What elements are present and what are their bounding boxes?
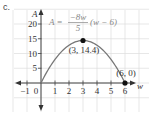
y-axis-label: A: [31, 9, 38, 19]
x-tick-label: 0: [34, 86, 39, 96]
x-tick-label: 6: [123, 86, 128, 96]
data-point-label: (6, 0): [116, 68, 136, 78]
equation-numerator: −8w: [70, 12, 87, 22]
y-tick-label: 10: [28, 49, 38, 59]
equation-rhs: (w − 6): [90, 17, 117, 27]
data-point: [122, 80, 127, 85]
y-tick-label: 15: [28, 34, 38, 44]
data-point: [80, 38, 85, 43]
y-tick-label: 20: [28, 19, 38, 29]
equation-lhs: A =: [48, 17, 63, 27]
x-axis-right-arrow-icon: [130, 81, 136, 86]
x-axis-label: w: [137, 81, 143, 91]
data-point-label: (3, 14.4): [69, 45, 100, 55]
x-tick-label: 4: [95, 86, 100, 96]
y-axis-down-arrow-icon: [39, 105, 44, 111]
x-axis-left-arrow-icon: [15, 81, 21, 86]
x-tick-label: −1: [20, 86, 30, 96]
parabola-chart: −101234565101520 (3, 14.4)(6, 0) Aw A =−…: [0, 0, 151, 114]
ticks: −101234565101520: [20, 19, 128, 96]
x-tick-label: 2: [67, 86, 72, 96]
data-points: (3, 14.4)(6, 0): [69, 38, 136, 86]
equation-label: A =−8w5(w − 6): [48, 12, 117, 33]
y-axis-up-arrow-icon: [39, 9, 44, 15]
x-tick-label: 5: [109, 86, 114, 96]
x-tick-label: 1: [53, 86, 58, 96]
equation-denominator: 5: [76, 23, 81, 33]
x-tick-label: 3: [81, 86, 86, 96]
y-tick-label: 5: [33, 63, 38, 73]
